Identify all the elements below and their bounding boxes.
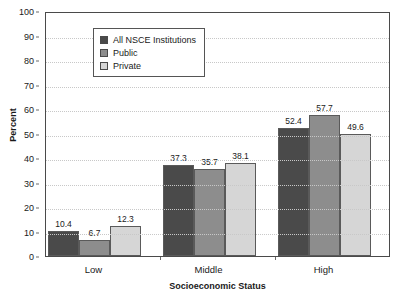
legend-swatch-icon [100,49,108,57]
y-axis-tick-label: 90 [0,32,34,42]
x-axis-title: Socioeconomic Status [45,281,390,291]
bar-value-label: 12.3 [117,214,134,224]
bar-value-label: 49.6 [347,122,364,132]
bar [110,226,141,256]
legend-item: All NSCE Institutions [100,33,196,46]
gridline [46,234,389,235]
y-axis-tick-mark [36,134,39,135]
x-axis-tick-mark [160,257,161,260]
bar-chart: Percent 0102030405060708090100 10.46.712… [0,0,412,303]
x-axis-tick-label: High [314,264,334,275]
y-axis-tick-mark [36,110,39,111]
bar [194,169,225,256]
gridline [46,209,389,210]
y-axis-tick-mark [36,257,39,258]
y-axis-tick-labels: 0102030405060708090100 [0,12,40,257]
gridline [46,185,389,186]
y-axis-tick-label: 60 [0,105,34,115]
gridline [46,136,389,137]
legend-label: All NSCE Institutions [113,35,196,45]
y-axis-tick-label: 80 [0,56,34,66]
gridline [46,87,389,88]
bar [340,134,371,256]
y-axis-tick-label: 10 [0,228,34,238]
bar [79,240,110,256]
bar-value-label: 35.7 [201,157,218,167]
y-axis-tick-mark [36,208,39,209]
y-axis-tick-mark [36,61,39,62]
gridline [46,160,389,161]
y-axis-tick-mark [36,183,39,184]
y-axis-tick-mark [36,36,39,37]
y-axis-tick-mark [36,159,39,160]
legend-item: Private [100,59,196,72]
y-axis-tick-label: 30 [0,179,34,189]
bar-value-label: 37.3 [170,153,187,163]
y-axis-tick-label: 20 [0,203,34,213]
y-axis-tick-label: 40 [0,154,34,164]
x-axis-tick-mark [275,257,276,260]
bar [163,165,194,256]
y-axis-tick-label: 100 [0,7,34,17]
gridline [46,111,389,112]
x-axis-tick-label: Low [85,264,102,275]
y-axis-tick-label: 50 [0,130,34,140]
legend-swatch-icon [100,36,108,44]
y-axis-tick-mark [36,85,39,86]
legend-label: Public [113,48,138,58]
legend-label: Private [113,61,141,71]
y-axis-tick-mark [36,232,39,233]
bar [278,128,309,256]
x-axis-tick-label: Middle [195,264,223,275]
legend-item: Public [100,46,196,59]
legend: All NSCE InstitutionsPublicPrivate [93,28,205,77]
y-axis-tick-label: 70 [0,81,34,91]
bar-value-label: 52.4 [285,116,302,126]
bar-value-label: 10.4 [55,219,72,229]
legend-swatch-icon [100,62,108,70]
y-axis-tick-label: 0 [0,252,34,262]
bar-group: 52.457.749.6 [278,13,371,256]
y-axis-tick-mark [36,12,39,13]
